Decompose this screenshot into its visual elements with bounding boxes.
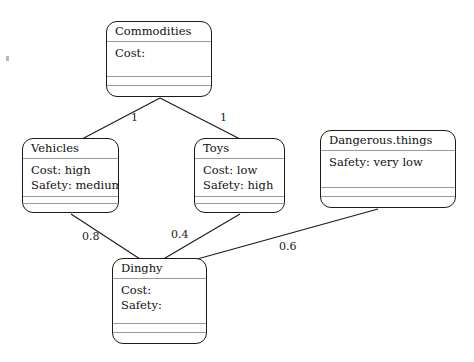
- attribute-line: Cost: low: [203, 163, 284, 178]
- class-compartment-extra: [321, 197, 455, 207]
- edge-line-commodities-vehicles: [82, 98, 160, 139]
- class-attributes-dinghy: Cost: Safety:: [113, 279, 206, 324]
- class-box-toys[interactable]: Toys Cost: low Safety: high: [194, 138, 285, 213]
- class-compartment-extra: [195, 204, 284, 212]
- class-attributes-commodities: Cost:: [107, 42, 211, 77]
- class-compartment-extra: [113, 333, 206, 343]
- class-compartment-operations: [321, 188, 455, 197]
- diagram-canvas: Commodities Cost: Vehicles Cost: high Sa…: [0, 0, 474, 362]
- class-name-toys: Toys: [195, 139, 284, 159]
- scan-artifact-speck: [6, 56, 9, 61]
- attribute-line: Cost:: [115, 46, 211, 61]
- class-compartment-operations: [23, 197, 118, 204]
- attribute-line: Cost:: [121, 283, 206, 298]
- class-compartment-extra: [107, 86, 211, 96]
- class-name-dangerous-things: Dangerous.things: [321, 131, 455, 151]
- edge-label-commodities-toys: 1: [220, 111, 227, 124]
- attribute-line: Safety: high: [203, 178, 284, 193]
- edge-label-toys-dinghy: 0.4: [171, 228, 189, 241]
- class-box-dinghy[interactable]: Dinghy Cost: Safety:: [112, 258, 207, 344]
- class-attributes-vehicles: Cost: high Safety: medium: [23, 159, 118, 197]
- edge-line-dangerous-dinghy: [190, 209, 378, 261]
- edge-label-dangerous-dinghy: 0.6: [279, 240, 297, 253]
- edge-label-vehicles-dinghy: 0.8: [82, 230, 100, 243]
- class-compartment-operations: [113, 324, 206, 333]
- class-box-commodities[interactable]: Commodities Cost:: [106, 21, 212, 97]
- class-name-vehicles: Vehicles: [23, 139, 118, 159]
- class-compartment-operations: [107, 77, 211, 86]
- class-attributes-dangerous-things: Safety: very low: [321, 151, 455, 188]
- attribute-line: Safety: very low: [329, 155, 455, 170]
- class-box-dangerous-things[interactable]: Dangerous.things Safety: very low: [320, 130, 456, 208]
- class-compartment-operations: [195, 197, 284, 204]
- class-box-vehicles[interactable]: Vehicles Cost: high Safety: medium: [22, 138, 119, 213]
- edge-label-commodities-vehicles: 1: [131, 111, 138, 124]
- edge-line-commodities-toys: [160, 98, 240, 139]
- class-name-dinghy: Dinghy: [113, 259, 206, 279]
- class-name-commodities: Commodities: [107, 22, 211, 42]
- class-compartment-extra: [23, 204, 118, 212]
- attribute-line: Cost: high: [31, 163, 118, 178]
- class-attributes-toys: Cost: low Safety: high: [195, 159, 284, 197]
- attribute-line: Safety: medium: [31, 178, 118, 193]
- attribute-line: Safety:: [121, 298, 206, 313]
